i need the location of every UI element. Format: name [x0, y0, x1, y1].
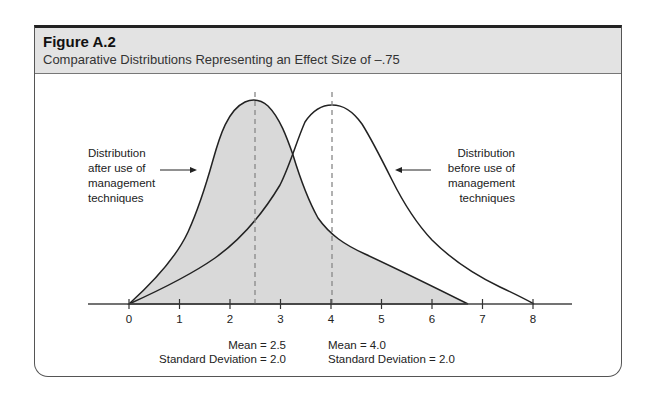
tick-label: 3 — [271, 313, 291, 325]
sd-after: Standard Deviation = 2.0 — [100, 352, 286, 366]
tick-label: 4 — [321, 313, 341, 325]
annotation-line: management — [438, 176, 515, 191]
stats-after: Mean = 2.5 Standard Deviation = 2.0 — [100, 338, 286, 366]
annotation-line: techniques — [88, 191, 155, 206]
arrow-right-icon — [160, 167, 197, 173]
after-distribution-area — [129, 100, 468, 304]
tick-label: 7 — [473, 313, 493, 325]
mean-after: Mean = 2.5 — [100, 338, 286, 352]
sd-before: Standard Deviation = 2.0 — [328, 352, 455, 366]
annotation-line: techniques — [438, 191, 515, 206]
tick-label: 6 — [422, 313, 442, 325]
tick-label: 2 — [220, 313, 240, 325]
tick-label: 1 — [170, 313, 190, 325]
annotation-line: Distribution — [88, 146, 155, 161]
stats-before: Mean = 4.0 Standard Deviation = 2.0 — [328, 338, 455, 366]
tick-label: 8 — [523, 313, 543, 325]
tick-label: 5 — [372, 313, 392, 325]
annotation-before: Distribution before use of management te… — [438, 146, 515, 206]
arrow-left-icon — [395, 167, 431, 173]
annotation-line: Distribution — [438, 146, 515, 161]
annotation-line: management — [88, 176, 155, 191]
annotation-line: after use of — [88, 161, 155, 176]
tick-label: 0 — [119, 313, 139, 325]
annotation-after: Distribution after use of management tec… — [88, 146, 155, 206]
annotation-line: before use of — [438, 161, 515, 176]
mean-before: Mean = 4.0 — [328, 338, 455, 352]
